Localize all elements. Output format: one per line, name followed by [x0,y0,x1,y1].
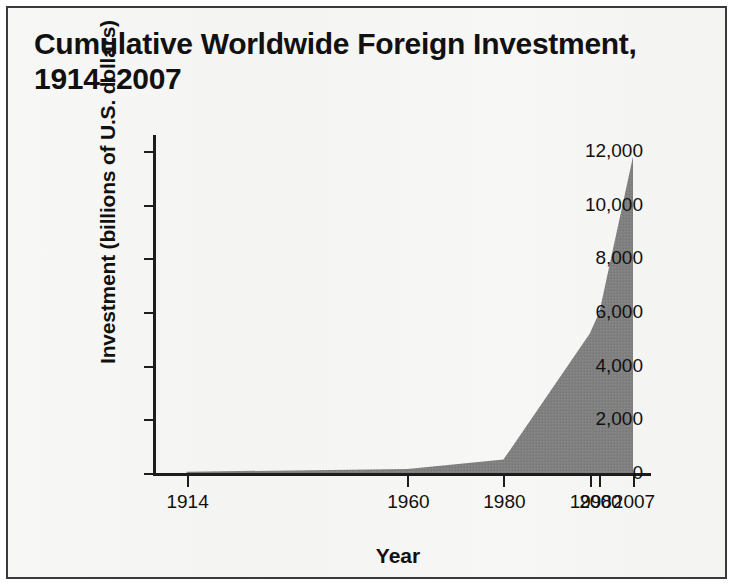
y-tick-mark [144,258,153,260]
x-tick-mark [599,476,601,487]
figure-frame: Cumulative Worldwide Foreign Investment,… [6,6,727,579]
chart-title: Cumulative Worldwide Foreign Investment,… [34,26,674,97]
figure-background: Cumulative Worldwide Foreign Investment,… [8,8,725,577]
plot-surface [153,135,657,473]
x-axis-line [153,473,651,476]
y-tick-label: 12,000 [585,140,643,162]
x-tick-label: 1960 [387,491,429,513]
x-tick-mark [187,476,189,487]
plot-area: 02,0004,0006,0008,00010,00012,000 191419… [147,135,657,479]
y-tick-mark [144,473,153,475]
x-tick-mark [407,476,409,487]
y-tick-label: 4,000 [595,355,643,377]
y-axis-title: Investment (billions of U.S. dollars) [96,0,120,392]
y-tick-mark [144,366,153,368]
chart-page: Cumulative Worldwide Foreign Investment,… [0,0,735,587]
y-tick-label: 2,000 [595,408,643,430]
x-axis-title: Year [148,544,648,568]
y-tick-mark [144,205,153,207]
y-axis-line [153,135,156,475]
x-tick-mark [503,476,505,487]
x-tick-label: 1914 [166,491,208,513]
area-series-shape [153,135,657,473]
y-tick-mark [144,312,153,314]
x-tick-label: 2007 [613,491,655,513]
x-tick-mark [590,476,592,487]
y-tick-label: 10,000 [585,194,643,216]
x-tick-mark [633,476,635,487]
y-tick-mark [144,151,153,153]
y-tick-label: 8,000 [595,247,643,269]
y-tick-mark [144,419,153,421]
y-tick-label: 6,000 [595,301,643,323]
x-tick-label: 1980 [483,491,525,513]
